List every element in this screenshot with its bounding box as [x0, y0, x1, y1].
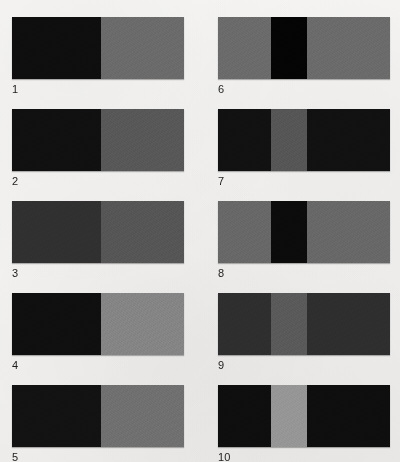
center-patch-9 — [271, 293, 307, 355]
right-patch-2 — [101, 109, 184, 171]
stimulus-label-5: 5 — [12, 451, 18, 462]
stimulus-label-2: 2 — [12, 175, 18, 187]
stimulus-cell-8: 8 — [218, 201, 390, 263]
stimulus-label-10: 10 — [218, 451, 231, 462]
stimulus-label-7: 7 — [218, 175, 224, 187]
stimulus-bar-7 — [218, 109, 390, 171]
right-patch-1 — [101, 17, 184, 79]
stimulus-bar-6 — [218, 17, 390, 79]
stimulus-label-4: 4 — [12, 359, 18, 371]
stimulus-bar-5 — [12, 385, 184, 447]
left-patch-1 — [12, 17, 101, 79]
right-patch-10 — [307, 385, 390, 447]
stimulus-cell-10: 10 — [218, 385, 390, 447]
stimulus-cell-2: 2 — [12, 109, 184, 171]
left-patch-9 — [218, 293, 271, 355]
stimulus-cell-1: 1 — [12, 17, 184, 79]
stimulus-label-8: 8 — [218, 267, 224, 279]
stimulus-bar-2 — [12, 109, 184, 171]
stimulus-cell-9: 9 — [218, 293, 390, 355]
stimulus-bar-4 — [12, 293, 184, 355]
stimulus-cell-7: 7 — [218, 109, 390, 171]
stimulus-bar-1 — [12, 17, 184, 79]
right-patch-5 — [101, 385, 184, 447]
stimulus-bar-9 — [218, 293, 390, 355]
left-patch-7 — [218, 109, 271, 171]
stimulus-plate: 12345678910 — [0, 0, 400, 462]
center-patch-10 — [271, 385, 307, 447]
left-patch-4 — [12, 293, 101, 355]
left-patch-3 — [12, 201, 101, 263]
right-patch-3 — [101, 201, 184, 263]
left-patch-8 — [218, 201, 271, 263]
stimulus-cell-4: 4 — [12, 293, 184, 355]
left-patch-10 — [218, 385, 271, 447]
right-patch-8 — [307, 201, 390, 263]
stimulus-cell-6: 6 — [218, 17, 390, 79]
left-patch-2 — [12, 109, 101, 171]
stimulus-bar-8 — [218, 201, 390, 263]
stimulus-cell-5: 5 — [12, 385, 184, 447]
left-patch-6 — [218, 17, 271, 79]
center-patch-7 — [271, 109, 307, 171]
stimulus-bar-3 — [12, 201, 184, 263]
stimulus-label-9: 9 — [218, 359, 224, 371]
stimulus-bar-10 — [218, 385, 390, 447]
center-patch-6 — [271, 17, 307, 79]
right-patch-7 — [307, 109, 390, 171]
stimulus-label-6: 6 — [218, 83, 224, 95]
right-patch-6 — [307, 17, 390, 79]
stimulus-label-1: 1 — [12, 83, 18, 95]
stimulus-label-3: 3 — [12, 267, 18, 279]
stimulus-cell-3: 3 — [12, 201, 184, 263]
center-patch-8 — [271, 201, 307, 263]
left-patch-5 — [12, 385, 101, 447]
right-patch-9 — [307, 293, 390, 355]
right-patch-4 — [101, 293, 184, 355]
